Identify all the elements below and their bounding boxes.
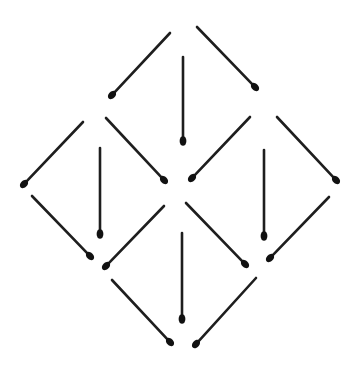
matchstick-left-lower-right	[100, 206, 164, 272]
matchstick-body	[26, 122, 83, 182]
matchstick-right-lower-right	[264, 197, 329, 264]
matchstick-bottom-lower-right	[190, 278, 256, 350]
matchstick-body	[186, 203, 243, 262]
matchstick-body	[32, 196, 88, 254]
matchstick-body	[112, 280, 168, 340]
matchstick-body	[194, 117, 250, 176]
matchstick-right-lower-left	[186, 203, 251, 270]
matchstick-diagram	[0, 0, 357, 371]
matchstick-body	[197, 27, 253, 85]
matchstick-top-upper-left	[106, 33, 170, 101]
matchstick-left-upper-left	[18, 122, 83, 190]
matchstick-body	[106, 118, 162, 178]
matchstick-bottom-center	[179, 233, 186, 324]
matchstick-right-center	[261, 150, 268, 241]
matchstick-left-lower-left	[32, 196, 96, 262]
matchstick-body	[272, 197, 329, 256]
matchstick-top-lower-left	[106, 118, 170, 186]
matchstick-right-upper-right	[277, 117, 342, 186]
matchstick-bottom-lower-left	[112, 280, 176, 348]
matchstick-head-icon	[97, 229, 104, 239]
matchstick-body	[198, 278, 256, 342]
matchstick-group	[18, 27, 342, 350]
matchstick-body	[108, 206, 164, 264]
matchstick-top-upper-right	[197, 27, 261, 93]
matchstick-body	[277, 117, 334, 178]
matchstick-left-center	[97, 148, 104, 239]
matchstick-head-icon	[180, 136, 187, 146]
matchstick-top-lower-right	[186, 117, 250, 184]
matchstick-body	[114, 33, 170, 93]
matchstick-head-icon	[179, 314, 186, 324]
matchstick-top-center	[180, 57, 187, 146]
matchstick-head-icon	[261, 231, 268, 241]
